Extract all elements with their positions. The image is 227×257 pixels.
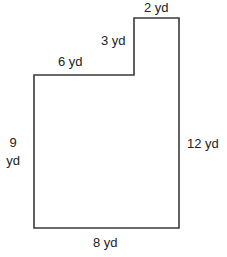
label-left: 9 yd [4, 134, 22, 170]
label-right: 12 yd [187, 136, 219, 152]
label-step-rise: 3 yd [101, 33, 126, 49]
label-bottom: 8 yd [93, 235, 118, 251]
label-left-value: 9 [4, 134, 22, 152]
label-top-step: 2 yd [144, 0, 169, 16]
composite-shape-outline [34, 18, 179, 228]
label-upper-left: 6 yd [58, 54, 83, 70]
label-left-unit: yd [4, 152, 22, 170]
